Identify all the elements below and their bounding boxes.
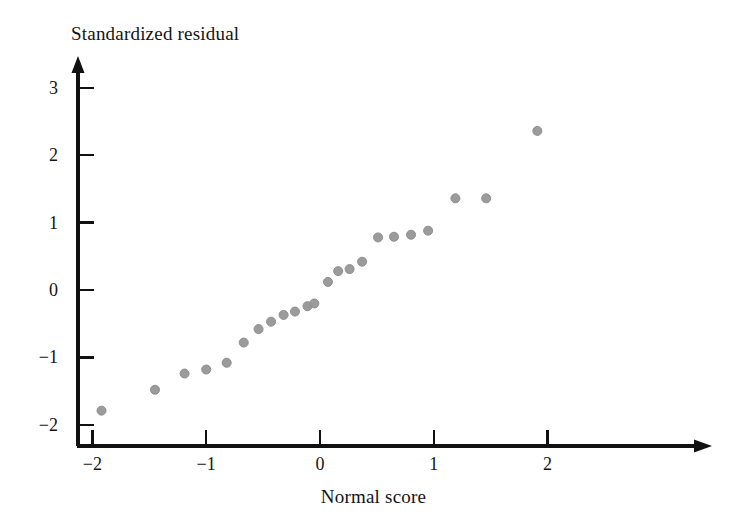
x-tick-label-4: 2 <box>543 454 552 475</box>
data-point <box>482 194 491 203</box>
data-points <box>97 126 542 415</box>
normal-probability-plot: Standardized residual Normal score −2−10… <box>0 0 747 521</box>
data-point <box>254 325 263 334</box>
data-point <box>407 230 416 239</box>
y-tick-label-3: 1 <box>18 212 58 233</box>
data-point <box>97 406 106 415</box>
data-point <box>424 226 433 235</box>
data-point <box>267 317 276 326</box>
data-point <box>222 358 231 367</box>
data-point <box>389 232 398 241</box>
y-tick-label-0: −2 <box>18 414 58 435</box>
x-tick-label-3: 1 <box>429 454 438 475</box>
y-tick-label-4: 2 <box>18 145 58 166</box>
y-tick-label-2: 0 <box>18 280 58 301</box>
y-axis-arrow <box>72 56 85 73</box>
data-point <box>150 385 159 394</box>
x-tick-label-2: 0 <box>316 454 325 475</box>
data-point <box>290 307 299 316</box>
data-point <box>310 299 319 308</box>
chart-canvas <box>0 0 747 521</box>
data-point <box>334 267 343 276</box>
data-point <box>202 365 211 374</box>
data-point <box>358 257 367 266</box>
data-point <box>533 126 542 135</box>
data-point <box>345 265 354 274</box>
data-point <box>279 310 288 319</box>
data-point <box>180 369 189 378</box>
y-axis-title: Standardized residual <box>71 23 239 45</box>
data-point <box>451 194 460 203</box>
data-point <box>374 233 383 242</box>
data-point <box>239 338 248 347</box>
y-tick-label-5: 3 <box>18 77 58 98</box>
x-axis-title: Normal score <box>0 486 747 508</box>
x-tick-label-1: −1 <box>197 454 216 475</box>
x-tick-label-0: −2 <box>83 454 102 475</box>
axes <box>72 56 713 453</box>
x-axis-arrow <box>694 440 712 453</box>
y-tick-label-1: −1 <box>18 347 58 368</box>
data-point <box>323 277 332 286</box>
